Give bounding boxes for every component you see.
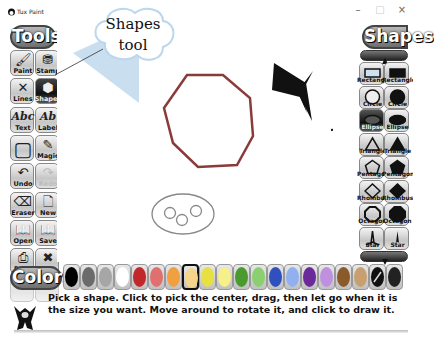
color-swatch[interactable]	[216, 264, 233, 290]
shape-label: Rectangle	[382, 76, 413, 84]
tool-label-button[interactable]: AbLabel	[35, 107, 59, 133]
color-swatch-fill	[269, 267, 282, 287]
color-picker-icon	[371, 267, 384, 287]
tool-lines-button[interactable]: ✕Lines	[10, 78, 34, 104]
shape-octagon-filled-button[interactable]: Octagon	[384, 203, 409, 226]
shapes-scroll-up-button[interactable]	[360, 50, 408, 61]
tool-new-button[interactable]: 🗋New	[35, 192, 59, 218]
fill-icon: ▢	[11, 137, 35, 161]
tool-label: Undo	[9, 180, 37, 188]
tool-label: Paint	[9, 67, 37, 75]
tool-eraser-button[interactable]: ⌫Eraser	[10, 192, 34, 218]
shape-triangle-filled-button[interactable]: Triangle	[384, 133, 409, 156]
color-swatch-fill	[201, 267, 214, 287]
shape-rect-filled-button[interactable]: Rectangle	[384, 62, 409, 85]
close-button[interactable]: ×	[392, 4, 412, 15]
shape-star-filled-button[interactable]: Star	[384, 227, 409, 250]
text-icon: Abc	[11, 109, 35, 125]
shape-label: Triangle	[382, 147, 413, 155]
small-circle-3	[191, 206, 202, 217]
tool-open-button[interactable]: 📖Open	[10, 220, 34, 246]
shape-label: Octagon	[382, 217, 413, 225]
tool-save-button[interactable]: 📖Save	[35, 220, 59, 246]
open-icon: 📖	[11, 222, 35, 238]
color-swatch[interactable]	[114, 264, 131, 290]
color-swatch-fill	[218, 267, 231, 287]
color-swatch[interactable]	[250, 264, 267, 290]
color-swatch[interactable]	[318, 264, 335, 290]
color-swatch-fill	[82, 267, 95, 287]
maximize-button[interactable]: □	[370, 4, 390, 15]
color-swatch-fill	[388, 267, 401, 287]
color-swatch[interactable]	[165, 264, 182, 290]
color-swatch-fill	[116, 267, 129, 287]
tux-logo-icon	[7, 8, 16, 16]
color-swatch-fill	[133, 267, 146, 287]
print-icon: ⎙	[11, 250, 35, 266]
shape-octagon-outline-button[interactable]: Octagon	[359, 203, 384, 226]
color-swatch-fill	[303, 267, 316, 287]
color-swatch[interactable]	[335, 264, 352, 290]
tool-paint-button[interactable]: 🖌Paint	[10, 50, 34, 76]
tool-magic-button[interactable]: ✎Magic	[35, 135, 59, 161]
color-swatch[interactable]	[386, 264, 403, 290]
color-swatch[interactable]	[148, 264, 165, 290]
shape-label: Pentagon	[382, 170, 413, 178]
tool-label: Lines	[9, 95, 37, 103]
title-bar: Tux Paint – □ ×	[0, 0, 408, 24]
shape-ellipse-outline-button[interactable]: Ellipse	[359, 109, 384, 132]
color-swatch-fill	[167, 267, 180, 287]
tool-redo-button[interactable]: ↷Redo	[35, 163, 59, 189]
shape-label: Rhombus	[382, 194, 413, 202]
color-swatch-fill	[286, 267, 299, 287]
undo-icon: ↶	[11, 165, 35, 181]
shape-label: Star	[382, 241, 413, 249]
tool-fill-button[interactable]: ▢	[10, 135, 34, 161]
shapes-scroll-down-button[interactable]	[360, 251, 408, 262]
color-swatch[interactable]	[199, 264, 216, 290]
shape-rect-outline-button[interactable]: Rectangle	[359, 62, 384, 85]
shape-circle-outline-button[interactable]: Circle	[359, 86, 384, 109]
color-swatch[interactable]	[301, 264, 318, 290]
color-swatch[interactable]	[233, 264, 250, 290]
color-swatch-fill	[252, 267, 265, 287]
color-swatch[interactable]	[267, 264, 284, 290]
tux-penguin-icon	[12, 302, 38, 332]
paintbrush-icon: 🖌	[11, 52, 35, 68]
tool-shapes-button[interactable]: ⬢Shapes	[35, 78, 59, 104]
color-swatch[interactable]	[369, 264, 386, 290]
color-swatch-fill	[65, 267, 78, 287]
tool-stamp-button[interactable]: ⛃Stamp	[35, 50, 59, 76]
shape-label: Ellipse	[382, 123, 413, 131]
tool-label: Eraser	[9, 209, 37, 217]
minimize-button[interactable]: –	[348, 4, 368, 15]
shape-rhombus-filled-button[interactable]: Rhombus	[384, 180, 409, 203]
color-swatch-fill	[320, 267, 333, 287]
tool-label: Open	[9, 237, 37, 245]
status-divider	[14, 330, 408, 333]
color-swatch[interactable]	[80, 264, 97, 290]
color-swatch-fill	[337, 267, 350, 287]
eraser-icon: ⌫	[11, 194, 35, 210]
shape-pentagon-outline-button[interactable]: Pentagon	[359, 156, 384, 179]
shape-triangle-outline-button[interactable]: Triangle	[359, 133, 384, 156]
shape-rhombus-outline-button[interactable]: Rhombus	[359, 180, 384, 203]
tool-undo-button[interactable]: ↶Undo	[10, 163, 34, 189]
color-swatch[interactable]	[182, 264, 199, 290]
tool-text-button[interactable]: AbcText	[10, 107, 34, 133]
shape-pentagon-filled-button[interactable]: Pentagon	[384, 156, 409, 179]
octagon-shape	[164, 75, 253, 167]
shapes-header: Shapes	[362, 25, 408, 49]
callout-label: Shapes tool	[93, 14, 173, 56]
color-swatch[interactable]	[284, 264, 301, 290]
color-swatch[interactable]	[63, 264, 80, 290]
shape-ellipse-filled-button[interactable]: Ellipse	[384, 109, 409, 132]
shape-circle-filled-button[interactable]: Circle	[384, 86, 409, 109]
color-swatch[interactable]	[131, 264, 148, 290]
color-swatch[interactable]	[352, 264, 369, 290]
color-swatch-fill	[235, 267, 248, 287]
color-swatch-fill	[371, 267, 384, 287]
color-swatch[interactable]	[97, 264, 114, 290]
shape-star-outline-button[interactable]: Star	[359, 227, 384, 250]
